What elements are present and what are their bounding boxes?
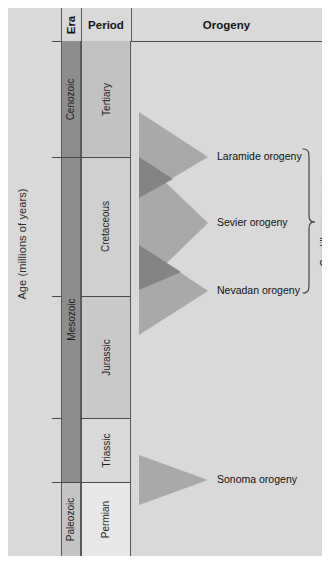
tick-mark-2	[52, 157, 61, 158]
tick-mark-4	[52, 418, 61, 419]
rule-144-ma	[81, 296, 131, 297]
header-separator-period-right	[131, 8, 132, 41]
era-cell-paleozoic: Paleozoic	[61, 482, 81, 556]
chart-body: 1.6 66 144 208 245 Cenozoic Mesozoic Pal…	[8, 41, 322, 556]
tick-mark-1	[52, 41, 61, 42]
tick-mark-5	[52, 482, 61, 483]
rule-66-ma	[61, 157, 131, 158]
period-label-cretaceous: Cretaceous	[101, 201, 112, 252]
period-cell-permian: Permian	[81, 482, 131, 556]
column-header-period: Period	[81, 8, 131, 41]
header-separator-era-left	[61, 8, 62, 41]
tick-mark-3	[52, 296, 61, 297]
era-label-mesozoic: Mesozoic	[66, 298, 77, 340]
wedge-sonoma	[139, 455, 208, 505]
orogeny-label-sevier: Sevier orogeny	[217, 216, 288, 228]
orogeny-label-nevadan: Nevadan orogeny	[217, 284, 300, 296]
period-cell-jurassic: Jurassic	[81, 296, 131, 418]
era-cell-mesozoic: Mesozoic	[61, 157, 81, 482]
column-header-era-label: Era	[65, 15, 77, 34]
column-header-orogeny: Orogeny	[131, 8, 322, 41]
column-header-era: Era	[61, 8, 81, 41]
period-label-tertiary: Tertiary	[100, 83, 111, 116]
period-cell-cretaceous: Cretaceous	[81, 157, 131, 296]
orogeny-panel: Laramide orogeny Sevier orogeny Nevadan …	[131, 41, 322, 556]
header-separator-era-right	[81, 8, 82, 41]
period-label-jurassic: Jurassic	[101, 339, 112, 376]
y-axis-gutter: 1.6 66 144 208 245	[8, 41, 61, 556]
period-cell-tertiary: Tertiary	[81, 41, 131, 157]
period-label-triassic: Triassic	[100, 433, 111, 467]
period-cell-triassic: Triassic	[81, 418, 131, 482]
rule-245-ma	[61, 482, 131, 483]
era-label-cenozoic: Cenozoic	[66, 78, 77, 120]
orogeny-label-sonoma: Sonoma orogeny	[217, 473, 297, 485]
cordilleran-bracket-label: Cordilleran orogeny	[318, 141, 322, 301]
period-label-permian: Permian	[101, 500, 112, 537]
orogeny-label-laramide: Laramide orogeny	[217, 150, 302, 162]
orogeny-time-scale-chart: Era Period Orogeny Age (millions of year…	[0, 0, 329, 564]
era-label-paleozoic: Paleozoic	[66, 497, 77, 540]
rule-208-ma	[81, 418, 131, 419]
era-cell-cenozoic: Cenozoic	[61, 41, 81, 157]
